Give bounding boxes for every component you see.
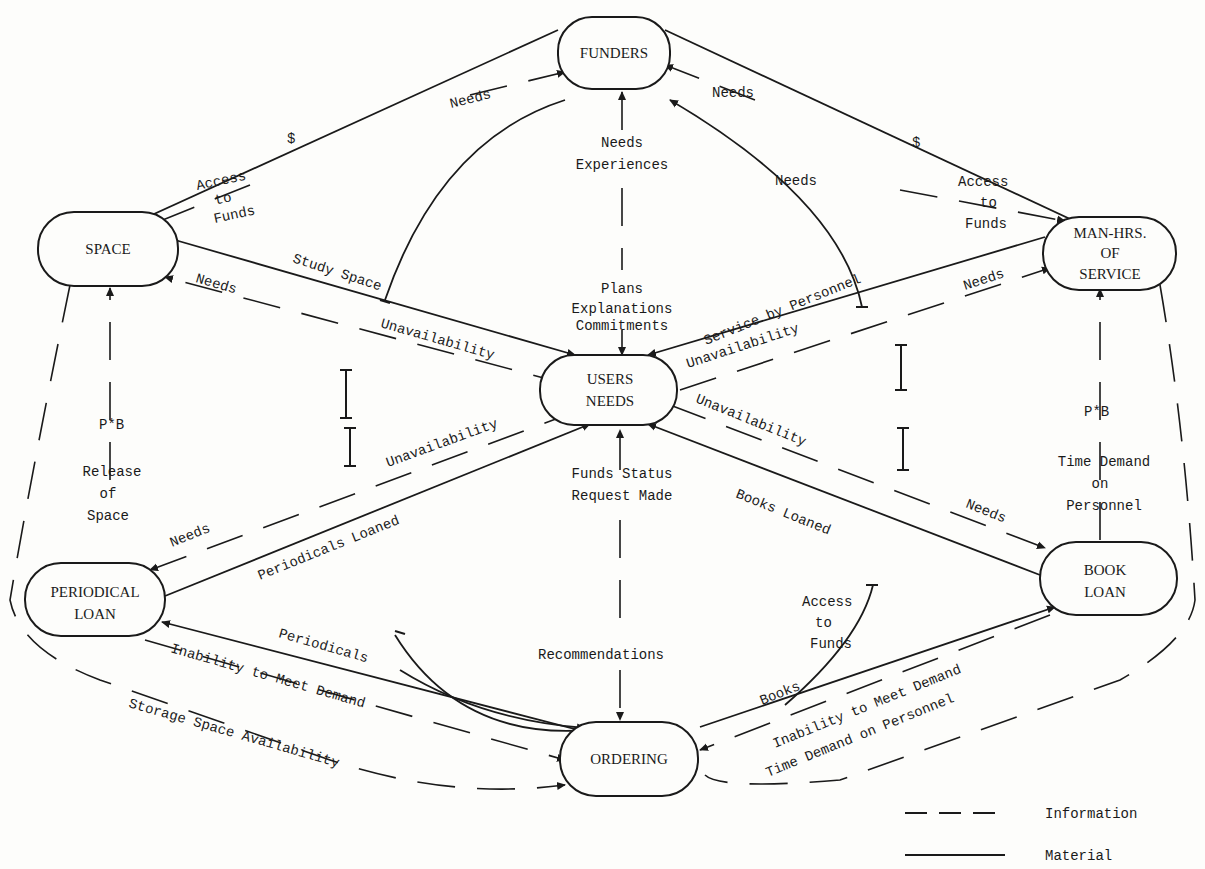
label-line: Plans bbox=[601, 281, 643, 297]
label-dollar-right: $ bbox=[912, 135, 920, 151]
label-dollar-left: $ bbox=[287, 131, 295, 147]
node-users-needs: USERS NEEDS bbox=[540, 355, 677, 425]
label-line: Access bbox=[958, 174, 1008, 190]
label-line: Time Demand bbox=[1058, 454, 1150, 470]
label-line: Experiences bbox=[576, 157, 668, 173]
flow-needs-funders-left-curve bbox=[385, 100, 565, 300]
flow-funders-manhrs-dollar bbox=[665, 30, 1130, 247]
node-label: SERVICE bbox=[1079, 266, 1140, 282]
label-needs-funders-left: Needs bbox=[448, 86, 493, 112]
label-unavailability-book: Unavailability bbox=[694, 391, 809, 450]
label-needs-funders-right: Needs bbox=[712, 85, 754, 101]
information-flows bbox=[10, 65, 1195, 789]
node-label: LOAN bbox=[1084, 584, 1126, 600]
label-line: of bbox=[100, 486, 117, 502]
node-funders: FUNDERS bbox=[558, 17, 670, 89]
label-unavailability-space: Unavailability bbox=[379, 315, 496, 363]
label-access-funds-bottom: Access to Funds bbox=[802, 594, 852, 652]
label-line: to bbox=[213, 189, 233, 208]
node-label: FUNDERS bbox=[580, 45, 648, 61]
label-periodicals: Periodicals bbox=[277, 625, 370, 666]
node-label: NEEDS bbox=[586, 393, 634, 409]
label-line: Release bbox=[83, 464, 142, 480]
flow-periodicals-loaned bbox=[165, 424, 590, 596]
label-release-of-space: Release of Space bbox=[83, 464, 142, 524]
edge-labels: $ $ Needs Needs Access to Funds Access t… bbox=[83, 85, 1151, 781]
node-space: SPACE bbox=[38, 212, 178, 286]
library-system-diagram: FUNDERS SPACE MAN-HRS. OF SERVICE USERS … bbox=[0, 0, 1205, 869]
label-line: Funds bbox=[965, 216, 1007, 232]
flow-needs-funders-right-curve bbox=[670, 100, 862, 307]
node-label: BOOK bbox=[1084, 562, 1127, 578]
legend-information-label: Information bbox=[1045, 806, 1137, 822]
label-pb-right: P*B bbox=[1084, 404, 1109, 420]
label-line: Request Made bbox=[572, 488, 673, 504]
label-storage-space-availability: Storage Space Availability bbox=[127, 695, 341, 771]
ibeam-marker bbox=[344, 428, 356, 466]
label-unavailability-periodical: Unavailability bbox=[384, 415, 500, 470]
node-label: USERS bbox=[587, 371, 634, 387]
label-line: Funds Status bbox=[572, 466, 673, 482]
label-access-funds-left: Access to Funds bbox=[195, 167, 257, 229]
node-label: ORDERING bbox=[590, 751, 668, 767]
node-label: SPACE bbox=[85, 241, 130, 257]
label-needs-space: Needs bbox=[194, 270, 239, 297]
label-line: on bbox=[1092, 476, 1109, 492]
node-label: OF bbox=[1100, 245, 1119, 261]
label-line: Space bbox=[87, 508, 129, 524]
label-line: Explanations bbox=[572, 301, 673, 317]
label-needs-mid-right: Needs bbox=[775, 173, 817, 189]
label-line: Needs bbox=[601, 135, 643, 151]
node-ordering: ORDERING bbox=[560, 722, 698, 796]
flow-funders-space-dollar bbox=[97, 30, 558, 240]
info-book-needs-unavail bbox=[670, 405, 1045, 548]
ibeam-marker bbox=[895, 345, 907, 390]
info-periodical-needs-unavail bbox=[150, 410, 580, 570]
label-line: Commitments bbox=[576, 318, 668, 334]
flow-periodicals bbox=[162, 622, 590, 733]
label-line: to bbox=[980, 195, 997, 211]
label-line: to bbox=[815, 615, 832, 631]
label-plans: Plans Explanations Commitments bbox=[572, 281, 673, 334]
flow-study-space bbox=[175, 240, 575, 355]
label-books-loaned: Books Loaned bbox=[734, 486, 833, 539]
label-needs-experiences: Needs Experiences bbox=[576, 135, 668, 173]
label-books: Books bbox=[758, 678, 803, 709]
label-line: Personnel bbox=[1066, 498, 1142, 514]
label-line: Access bbox=[802, 594, 852, 610]
node-label: MAN-HRS. bbox=[1074, 225, 1147, 241]
info-time-demand-bottom bbox=[705, 285, 1195, 784]
label-pb-left: P*B bbox=[99, 417, 124, 433]
label-recommendations: Recommendations bbox=[538, 647, 664, 663]
ibeam-marker bbox=[897, 428, 909, 470]
legend: Information Material bbox=[905, 806, 1137, 864]
node-book-loan: BOOK LOAN bbox=[1040, 542, 1177, 615]
ibeam-marker bbox=[340, 370, 352, 418]
node-manhrs-of-service: MAN-HRS. OF SERVICE bbox=[1043, 217, 1176, 290]
label-needs-periodical: Needs bbox=[168, 520, 213, 551]
node-label: PERIODICAL bbox=[50, 584, 139, 600]
tick bbox=[395, 631, 405, 634]
node-label: LOAN bbox=[74, 606, 116, 622]
label-line: Funds bbox=[810, 636, 852, 652]
node-periodical-loan: PERIODICAL LOAN bbox=[25, 563, 165, 636]
label-funds-status-request-made: Funds Status Request Made bbox=[572, 466, 673, 504]
flow-books-loaned bbox=[648, 424, 1040, 575]
label-needs-book: Needs bbox=[964, 496, 1009, 527]
label-time-demand-on-personnel: Time Demand on Personnel bbox=[1058, 454, 1150, 514]
legend-material-label: Material bbox=[1045, 848, 1112, 864]
label-study-space: Study Space bbox=[291, 251, 384, 295]
